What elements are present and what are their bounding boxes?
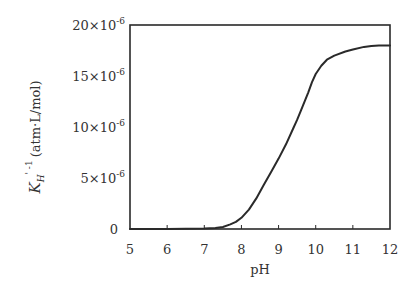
series-line (130, 45, 390, 229)
x-tick-label: 12 (382, 242, 399, 257)
y-tick-label: 0 (110, 222, 118, 237)
x-tick-label: 10 (307, 242, 324, 257)
x-tick-label: 6 (163, 242, 171, 257)
y-tick-label: 5×10-6 (81, 169, 126, 186)
chart: 05×10-610×10-615×10-620×10-6 56789101112… (0, 0, 418, 292)
x-tick-label: 11 (345, 242, 362, 257)
y-axis-label: KH' -1(atm·L/mol) (24, 80, 46, 194)
y-tick-labels: 05×10-610×10-615×10-620×10-6 (72, 16, 125, 237)
y-tick-label: 20×10-6 (72, 16, 125, 33)
x-axis-label: pH (250, 262, 270, 277)
x-tick-label: 9 (274, 242, 282, 257)
plot-frame (130, 25, 390, 229)
x-tick-label: 5 (126, 242, 134, 257)
x-tick-label: 8 (237, 242, 245, 257)
y-tick-label: 10×10-6 (72, 118, 125, 135)
x-tick-label: 7 (200, 242, 208, 257)
y-axis-label-text: KH' -1(atm·L/mol) (24, 80, 46, 194)
x-tick-labels: 56789101112 (126, 242, 398, 257)
y-tick-label: 15×10-6 (72, 67, 125, 84)
